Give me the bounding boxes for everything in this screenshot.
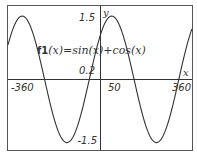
function-expression: (x)=sin(x)+cos(x) [48, 44, 145, 57]
graph-canvas[interactable]: 1.5 0.2 -1.5 -360 50 360 x y f1(x)=sin(x… [0, 0, 197, 153]
function-name: f1 [37, 45, 48, 56]
y-axis-label: y [102, 7, 109, 18]
function-label[interactable]: f1(x)=sin(x)+cos(x) [37, 44, 146, 57]
x-axis-label: x [183, 67, 189, 78]
x-tick-mid: 50 [108, 82, 121, 93]
x-tick-left: -360 [11, 82, 34, 93]
y-tick-top: 1.5 [79, 12, 95, 23]
y-tick-mid: 0.2 [79, 65, 95, 76]
y-tick-bottom: -1.5 [77, 135, 97, 146]
x-tick-right: 360 [172, 82, 191, 93]
